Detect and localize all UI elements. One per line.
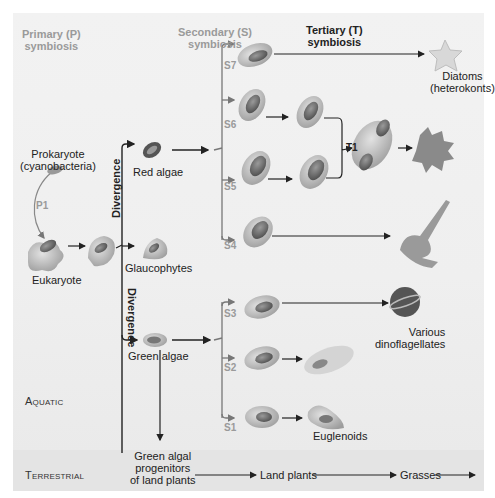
eukaryote-label: Eukaryote [32, 274, 82, 286]
divergence-label-upper: Divergence [110, 159, 122, 218]
aquatic-zone-label: Aquatic [25, 395, 63, 407]
prokaryote-label: Prokaryote (cyanobacteria) [20, 148, 96, 172]
s7-label: S7 [224, 60, 236, 71]
label-line: of land plants [130, 474, 195, 486]
s5-cell-2 [294, 150, 335, 194]
s5-cell [236, 146, 277, 190]
s4-label: S4 [224, 240, 236, 251]
header-line: Primary (P) [22, 28, 81, 40]
label-line: Green algal [130, 450, 195, 462]
red-algae-label: Red algae [133, 166, 183, 178]
header-line: Tertiary (T) [306, 24, 363, 36]
tertiary-symbiosis-header: Tertiary (T) symbiosis [306, 24, 363, 48]
s6-cell-2 [291, 91, 329, 132]
header-line: symbiosis [22, 40, 81, 52]
diatom-shape [429, 40, 462, 71]
divergence-label-lower: Divergence [126, 288, 138, 347]
secondary-symbiosis-header: Secondary (S) symbiosis [178, 26, 252, 50]
grasses-label: Grasses [400, 469, 441, 481]
s3-cell [242, 292, 282, 323]
p1-label: P1 [36, 200, 48, 211]
label-line: (heterokonts) [430, 82, 495, 94]
euglenoid-cell [308, 405, 344, 429]
s1-label: S1 [224, 422, 236, 433]
diatoms-label: Diatoms (heterokonts) [430, 70, 495, 94]
s3-label: S3 [224, 308, 236, 319]
label-line: progenitors [130, 462, 195, 474]
label-line: dinoflagellates [375, 338, 445, 350]
header-line: symbiosis [306, 36, 363, 48]
dinoflagellates-label: Various dinoflagellates [375, 326, 445, 350]
s5-label: S5 [224, 181, 236, 192]
s2-label: S2 [224, 362, 236, 373]
dinoflagellate-horn [400, 200, 450, 268]
s6-label: S6 [224, 119, 236, 130]
label-line: Diatoms [430, 70, 495, 82]
green-algae-label: Green algae [128, 350, 189, 362]
s2-result-cell [300, 340, 357, 380]
euglenoids-label: Euglenoids [313, 430, 367, 442]
label-line: Prokaryote [20, 148, 96, 160]
terrestrial-zone-label: Terrestrial [25, 469, 84, 481]
s6-cell [233, 84, 271, 125]
header-line: Secondary (S) [178, 26, 252, 38]
land-plants-label: Land plants [260, 469, 317, 481]
label-line: Various [375, 326, 445, 338]
dinoflagellate-spiky [412, 127, 454, 173]
s1-cell [245, 406, 279, 428]
label-line: (cyanobacteria) [20, 160, 96, 172]
primary-symbiosis-header: Primary (P) symbiosis [22, 28, 81, 52]
s2-cell [242, 343, 282, 374]
s4-cell [237, 211, 279, 254]
header-line: symbiosis [178, 38, 252, 50]
green-algal-progenitors-label: Green algal progenitors of land plants [130, 450, 195, 486]
t1-label: T1 [346, 142, 358, 153]
glaucophytes-label: Glaucophytes [125, 262, 192, 274]
